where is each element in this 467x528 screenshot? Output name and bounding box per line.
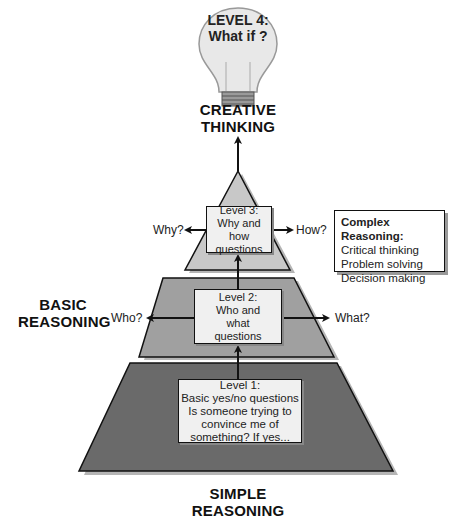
who-label: Who? <box>111 311 142 325</box>
level1-line5: something? If yes... <box>179 431 301 444</box>
level4-title: LEVEL 4: <box>198 12 278 28</box>
level1-box: Level 1: Basic yes/no questions Is someo… <box>178 379 302 443</box>
complex-reasoning-box: Complex Reasoning: Critical thinking Pro… <box>334 210 445 272</box>
complex-item: Decision making <box>341 271 438 285</box>
level4-question: What if ? <box>198 28 278 44</box>
level2-line4: questions <box>195 330 281 343</box>
reasoning-line: REASONING <box>178 502 298 519</box>
level3-box: Level 3: Why and how questions <box>206 206 272 253</box>
what-label: What? <box>335 311 370 325</box>
creative-thinking-heading: CREATIVE THINKING <box>178 101 298 135</box>
level4-label: LEVEL 4: What if ? <box>198 12 278 44</box>
simple-line: SIMPLE <box>178 485 298 502</box>
reasoning-line: REASONING <box>18 313 108 330</box>
how-label: How? <box>296 223 327 237</box>
level1-line4: convince me of <box>179 418 301 431</box>
level1-title: Level 1: <box>179 379 301 392</box>
complex-reasoning-heading: Complex Reasoning: <box>341 215 438 243</box>
thinking-line: THINKING <box>178 118 298 135</box>
simple-reasoning-heading: SIMPLE REASONING <box>178 485 298 519</box>
creative-line: CREATIVE <box>178 101 298 118</box>
basic-reasoning-heading: BASIC REASONING <box>18 296 108 330</box>
basic-line: BASIC <box>18 296 108 313</box>
level2-box: Level 2: Who and what questions <box>194 289 282 344</box>
level2-line2: Who and <box>195 304 281 317</box>
level3-line3: questions <box>207 243 271 256</box>
level1-line2: Basic yes/no questions <box>179 392 301 405</box>
complex-item: Critical thinking <box>341 243 438 257</box>
level2-title: Level 2: <box>195 291 281 304</box>
level1-line3: Is someone trying to <box>179 405 301 418</box>
level3-title: Level 3: <box>207 204 271 217</box>
why-label: Why? <box>153 223 184 237</box>
complex-item: Problem solving <box>341 257 438 271</box>
level3-line2: Why and how <box>207 217 271 243</box>
level2-line3: what <box>195 317 281 330</box>
